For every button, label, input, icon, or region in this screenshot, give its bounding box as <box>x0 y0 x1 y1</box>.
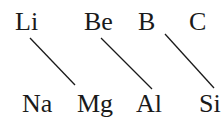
element-b: B <box>138 9 155 35</box>
element-mg: Mg <box>77 91 113 117</box>
element-c: C <box>189 9 206 35</box>
element-al: Al <box>136 91 162 117</box>
element-na: Na <box>22 91 52 117</box>
diagonal-relationship-diagram: Li Be B C Na Mg Al Si <box>0 0 224 125</box>
link-b-si <box>165 34 214 88</box>
element-si: Si <box>199 91 221 117</box>
link-be-al <box>101 38 152 89</box>
element-be: Be <box>84 9 113 35</box>
link-li-mg <box>30 38 75 85</box>
element-li: Li <box>15 9 38 35</box>
